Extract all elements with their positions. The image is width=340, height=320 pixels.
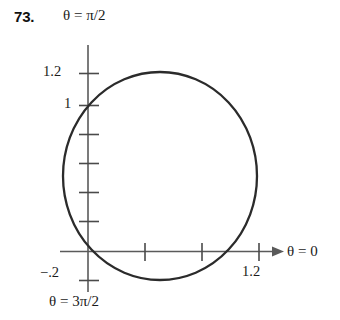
axis-label-theta-pi-over-2: θ = π/2 [63,7,105,24]
polar-graph-figure: 73. θ = π/2 [0,0,340,320]
polar-curve [63,72,257,280]
axis-label-theta-3pi-over-2: θ = 3π/2 [49,293,99,310]
y-tick-label-negative-0-2: −.2 [40,264,59,281]
y-tick-label-1: 1 [64,95,71,112]
axis-label-theta-zero: θ = 0 [287,243,318,260]
x-tick-label-1-2: 1.2 [242,263,260,280]
y-tick-label-1-2: 1.2 [43,63,61,80]
